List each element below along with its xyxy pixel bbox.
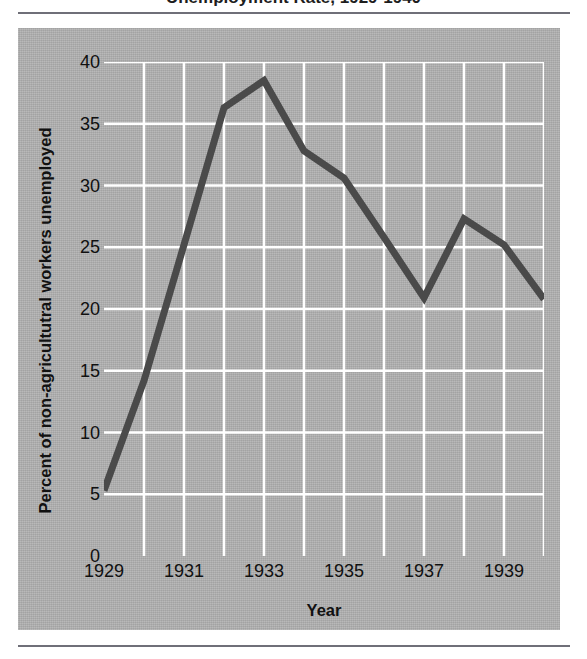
y-tick-label: 20 [66, 300, 100, 318]
x-tick-label: 1935 [309, 562, 379, 580]
plot-area [104, 62, 544, 556]
x-tick-label: 1937 [389, 562, 459, 580]
y-tick-label: 25 [66, 238, 100, 256]
unemployment-data-line [104, 81, 544, 491]
y-tick-label: 15 [66, 362, 100, 380]
x-tick-label: 1929 [69, 562, 139, 580]
y-tick-label: 10 [66, 424, 100, 442]
y-axis-title: Percent of non-agricultutral workers une… [36, 61, 55, 581]
y-axis-tick-labels: 0510152025303540 [60, 62, 100, 556]
figure-title-cropped: Unemployment Rate, 1929-1940 [0, 0, 587, 11]
grid-lines [104, 62, 544, 556]
chart-figure-panel: Percent of non-agricultutral workers une… [18, 28, 560, 630]
line-chart-svg [104, 62, 544, 556]
x-tick-label: 1939 [469, 562, 539, 580]
bottom-divider-rule [18, 645, 570, 647]
x-tick-label: 1931 [149, 562, 219, 580]
y-tick-label: 35 [66, 115, 100, 133]
y-tick-label: 40 [66, 53, 100, 71]
x-axis-tick-labels: 192919311933193519371939 [104, 562, 544, 586]
x-axis-title: Year [104, 601, 544, 620]
y-tick-label: 30 [66, 177, 100, 195]
figure-title-text: Unemployment Rate, 1929-1940 [0, 0, 587, 8]
x-tick-label: 1933 [229, 562, 299, 580]
top-divider-rule [18, 12, 570, 14]
y-tick-label: 5 [66, 485, 100, 503]
